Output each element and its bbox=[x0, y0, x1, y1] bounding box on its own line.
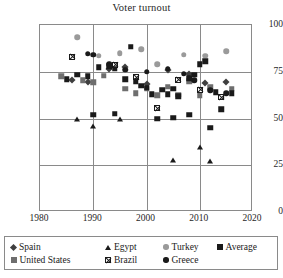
legend-item-label: Turkey bbox=[172, 242, 199, 252]
data-point-united-states bbox=[101, 73, 107, 79]
data-point-average bbox=[112, 111, 118, 117]
chart-legend: SpainEgyptTurkeyAverageUnited StatesBraz… bbox=[4, 236, 278, 270]
legend-item-label: Egypt bbox=[114, 242, 137, 252]
data-point-average bbox=[170, 86, 176, 92]
data-point-brazil bbox=[197, 87, 203, 93]
y-axis-tick-label: 75 bbox=[251, 66, 283, 76]
data-point-average bbox=[229, 91, 235, 97]
chart-title: Voter turnout bbox=[0, 2, 283, 13]
triangle-marker-icon bbox=[105, 245, 111, 250]
legend-item-label: Greece bbox=[172, 255, 199, 265]
data-point-greece bbox=[165, 66, 171, 72]
legend-item-egypt[interactable]: Egypt bbox=[105, 242, 137, 252]
data-point-greece bbox=[91, 52, 97, 58]
data-point-average bbox=[213, 90, 219, 96]
data-point-average bbox=[202, 59, 208, 65]
x-axis-tick-label: 1990 bbox=[72, 213, 112, 223]
data-point-turkey bbox=[117, 50, 123, 56]
data-point-average bbox=[144, 85, 150, 91]
y-axis-tick-label: 50 bbox=[251, 113, 283, 123]
y-axis-tick-label: 100 bbox=[251, 19, 283, 29]
data-point-average bbox=[128, 44, 134, 50]
data-point-average bbox=[218, 106, 224, 112]
data-point-turkey bbox=[181, 52, 187, 58]
legend-item-label: Average bbox=[226, 242, 257, 252]
data-point-average bbox=[176, 93, 182, 99]
gridline-horizontal bbox=[40, 165, 251, 166]
square-marker-icon bbox=[11, 257, 17, 263]
voter-turnout-chart: Voter turnout 1007550250 198019902000201… bbox=[0, 0, 283, 278]
circle-marker-icon bbox=[163, 257, 169, 263]
data-points-layer bbox=[40, 25, 251, 67]
legend-item-united-states[interactable]: United States bbox=[11, 255, 70, 265]
data-point-egypt bbox=[74, 116, 80, 121]
data-point-average bbox=[170, 115, 176, 121]
data-point-united-states bbox=[197, 92, 203, 98]
data-point-turkey bbox=[154, 62, 160, 68]
data-point-average bbox=[208, 125, 214, 131]
data-point-brazil bbox=[175, 77, 181, 83]
data-point-average bbox=[154, 116, 160, 122]
data-point-turkey bbox=[75, 34, 81, 40]
x-axis-tick-label: 2000 bbox=[126, 213, 166, 223]
data-point-spain bbox=[68, 77, 75, 84]
data-point-egypt bbox=[207, 158, 213, 163]
gridline-horizontal bbox=[40, 119, 251, 120]
legend-item-label: United States bbox=[20, 255, 71, 265]
gridline-vertical bbox=[147, 25, 148, 210]
legend-item-label: Brazil bbox=[114, 255, 137, 265]
data-point-spain bbox=[223, 78, 230, 85]
data-point-turkey bbox=[96, 53, 102, 59]
data-point-egypt bbox=[117, 117, 123, 122]
legend-item-label: Spain bbox=[19, 242, 41, 252]
plot-area bbox=[39, 24, 252, 211]
legend-item-average[interactable]: Average bbox=[217, 242, 257, 252]
data-point-average bbox=[149, 91, 155, 97]
xsquare-marker-icon bbox=[105, 257, 111, 263]
legend-item-spain[interactable]: Spain bbox=[11, 242, 41, 252]
data-point-turkey bbox=[138, 47, 144, 53]
legend-item-brazil[interactable]: Brazil bbox=[105, 255, 137, 265]
diamond-marker-icon bbox=[10, 243, 17, 250]
data-point-united-states bbox=[91, 79, 97, 85]
data-point-average bbox=[75, 72, 81, 78]
data-point-united-states bbox=[154, 92, 160, 98]
data-point-brazil bbox=[69, 54, 75, 60]
data-point-average bbox=[64, 76, 70, 82]
x-axis-tick-label: 2020 bbox=[232, 213, 272, 223]
y-axis-tick-label: 25 bbox=[251, 159, 283, 169]
data-point-brazil bbox=[154, 105, 160, 111]
legend-item-turkey[interactable]: Turkey bbox=[163, 242, 199, 252]
data-point-greece bbox=[192, 77, 198, 83]
data-point-united-states bbox=[133, 91, 139, 97]
data-point-average bbox=[165, 91, 171, 97]
data-point-egypt bbox=[170, 157, 176, 162]
data-point-average bbox=[91, 112, 97, 118]
square-marker-icon bbox=[217, 244, 223, 250]
circle-marker-icon bbox=[163, 244, 169, 250]
data-point-united-states bbox=[122, 86, 128, 92]
data-point-average bbox=[96, 64, 102, 70]
data-point-average bbox=[186, 112, 192, 118]
data-point-average bbox=[122, 76, 128, 82]
gridline-vertical bbox=[200, 25, 201, 210]
x-axis-tick-label: 2010 bbox=[179, 213, 219, 223]
data-point-greece bbox=[144, 69, 150, 75]
legend-item-greece[interactable]: Greece bbox=[163, 255, 198, 265]
data-point-greece bbox=[122, 67, 128, 73]
data-point-average bbox=[192, 72, 198, 78]
x-axis-tick-label: 1980 bbox=[19, 213, 59, 223]
data-point-egypt bbox=[197, 144, 203, 149]
data-point-egypt bbox=[90, 123, 96, 128]
data-point-average bbox=[112, 66, 118, 72]
data-point-turkey bbox=[224, 48, 230, 54]
data-point-average bbox=[85, 74, 91, 80]
